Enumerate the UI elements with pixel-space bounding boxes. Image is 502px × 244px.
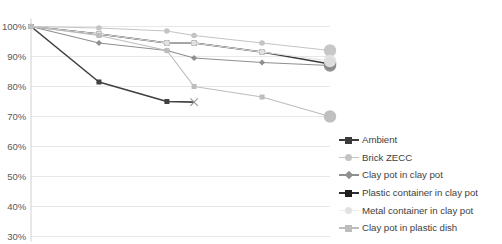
series-line [28, 24, 336, 67]
legend-label-clay-pot-in-clay-pot: Clay pot in clay pot [362, 169, 443, 180]
legend-item-brick-zecc[interactable]: Brick ZECC [338, 149, 502, 167]
legend-label-plastic-container-in-clay-pot: Plastic container in clay pot [362, 187, 478, 198]
y-axis-tick-label: 70% [0, 112, 26, 122]
legend-label-metal-container-in-clay-pot: Metal container in clay pot [362, 205, 473, 216]
legend-label-brick-zecc: Brick ZECC [362, 152, 412, 163]
legend-marker-clay-pot-in-clay-pot [338, 169, 360, 181]
legend-label-clay-pot-in-plastic-dish: Clay pot in plastic dish [362, 222, 457, 233]
y-axis-tick-label: 40% [0, 202, 26, 212]
legend-item-plastic-container-in-clay-pot[interactable]: Plastic container in clay pot [338, 184, 502, 202]
y-axis-tick-label: 30% [0, 232, 26, 242]
legend-marker-brick-zecc [338, 151, 360, 163]
line-chart: Ambient Brick ZECC Clay pot in clay pot … [0, 0, 502, 244]
y-axis-tick-label: 90% [0, 52, 26, 62]
y-axis-tick-label: 60% [0, 142, 26, 152]
legend-item-clay-pot-in-plastic-dish[interactable]: Clay pot in plastic dish [338, 219, 502, 237]
legend-label-ambient: Ambient [362, 134, 397, 145]
legend-marker-metal-container-in-clay-pot [338, 204, 360, 216]
y-axis-tick-label: 80% [0, 82, 26, 92]
series-line [29, 24, 337, 123]
chart-legend: Ambient Brick ZECC Clay pot in clay pot … [338, 131, 502, 237]
legend-marker-plastic-container-in-clay-pot [338, 187, 360, 199]
y-axis-tick-label: 100% [0, 22, 26, 32]
legend-marker-ambient [338, 134, 360, 146]
series-line [28, 24, 336, 57]
y-axis-tick-label: 50% [0, 172, 26, 182]
gridlines [31, 27, 330, 237]
legend-item-ambient[interactable]: Ambient [338, 131, 502, 149]
legend-item-clay-pot-in-clay-pot[interactable]: Clay pot in clay pot [338, 166, 502, 184]
legend-item-metal-container-in-clay-pot[interactable]: Metal container in clay pot [338, 201, 502, 219]
legend-marker-clay-pot-in-plastic-dish [338, 222, 360, 234]
